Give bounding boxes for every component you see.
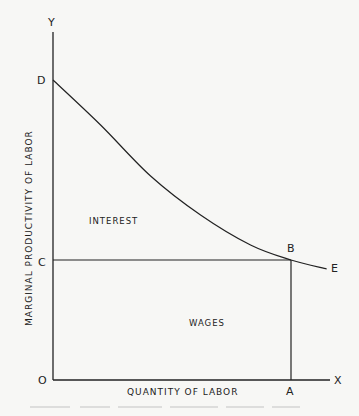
wages-region-label: WAGES: [189, 318, 225, 328]
x-axis-title: QUANTITY OF LABOR: [127, 387, 238, 397]
point-c-label: C: [38, 256, 46, 269]
x-axis-label: X: [334, 374, 342, 387]
point-a-label: A: [286, 385, 294, 398]
point-b-label: B: [287, 242, 295, 255]
bleed-through-marks: [30, 406, 300, 408]
y-axis-label: Y: [47, 16, 55, 29]
origin-label: O: [38, 374, 47, 387]
diagram-canvas: Y X O D C B E A INTEREST WAGES QUANTITY …: [0, 0, 359, 416]
marginal-productivity-curve: [53, 80, 327, 269]
point-d-label: D: [37, 74, 45, 87]
y-axis-title: MARGINAL PRODUCTIVITY OF LABOR: [24, 130, 34, 326]
point-e-label: E: [331, 262, 338, 275]
interest-region-label: INTEREST: [89, 216, 138, 226]
